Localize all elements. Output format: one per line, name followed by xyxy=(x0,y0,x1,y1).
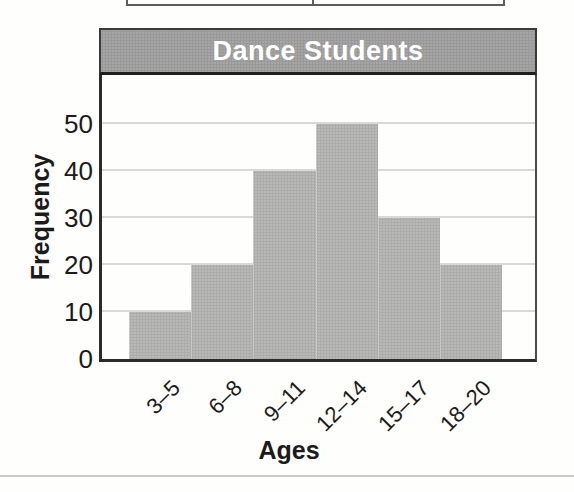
bar-3–5 xyxy=(129,312,191,359)
chart-figure: Dance Students xyxy=(99,28,537,362)
page: Dance Students 01020304050 Frequency 3–5… xyxy=(0,0,574,492)
x-axis-title: Ages xyxy=(189,436,389,465)
x-tick-label-12–14: 12–14 xyxy=(311,376,371,436)
x-tick-label-3–5: 3–5 xyxy=(142,376,185,419)
table-left-border xyxy=(126,0,128,6)
plot-area xyxy=(99,75,537,362)
x-tick-label-18–20: 18–20 xyxy=(436,376,496,436)
bar-18–20 xyxy=(440,265,502,359)
x-tick-label-6–8: 6–8 xyxy=(204,376,247,419)
chart-title-banner: Dance Students xyxy=(99,28,537,75)
bar-9–11 xyxy=(253,171,315,359)
y-axis-title: Frequency xyxy=(25,117,55,317)
bar-6–8 xyxy=(191,265,253,359)
table-bottom-border xyxy=(126,4,505,6)
bar-12–14 xyxy=(316,124,378,359)
table-column-divider xyxy=(312,0,314,5)
bar-15–17 xyxy=(378,218,440,359)
x-tick-label-9–11: 9–11 xyxy=(259,376,309,426)
table-right-border xyxy=(503,0,505,6)
x-tick-label-15–17: 15–17 xyxy=(374,376,434,436)
y-tick-label-0: 0 xyxy=(33,343,93,375)
page-divider-line xyxy=(0,475,574,477)
chart-title: Dance Students xyxy=(212,36,423,67)
